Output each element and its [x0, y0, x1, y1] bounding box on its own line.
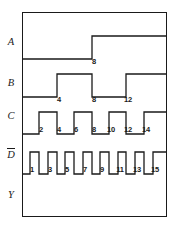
row-label-dbar: D	[2, 148, 20, 160]
tick-label-dbar-3: 3	[43, 165, 57, 174]
tick-label-dbar-15: 15	[148, 165, 162, 174]
tick-label-c-12: 12	[121, 125, 135, 134]
tick-label-dbar-11: 11	[113, 165, 127, 174]
row-label-c: C	[2, 110, 20, 121]
waveform-canvas	[22, 12, 167, 217]
row-label-y: Y	[2, 189, 20, 200]
row-label-y-text: Y	[8, 189, 14, 200]
tick-label-dbar-7: 7	[78, 165, 92, 174]
tick-label-dbar-5: 5	[60, 165, 74, 174]
timing-diagram-figure: A B C D Y 8 4 8 12 2 4 6 8 10 12 14	[0, 0, 175, 229]
tick-label-c-14: 14	[139, 125, 153, 134]
row-label-c-text: C	[7, 110, 14, 121]
tick-label-c-10: 10	[104, 125, 118, 134]
row-label-a: A	[2, 36, 20, 47]
waveform-b	[22, 74, 167, 97]
waveform-a	[22, 36, 167, 59]
row-label-a-text: A	[8, 36, 14, 47]
tick-label-b-8: 8	[87, 95, 101, 104]
tick-label-c-2: 2	[34, 125, 48, 134]
row-label-b-text: B	[8, 77, 14, 88]
tick-label-dbar-13: 13	[130, 165, 144, 174]
tick-label-a-8: 8	[87, 57, 101, 66]
tick-label-b-4: 4	[52, 95, 66, 104]
tick-label-c-4: 4	[52, 125, 66, 134]
tick-label-dbar-9: 9	[95, 165, 109, 174]
tick-label-b-12: 12	[121, 95, 135, 104]
tick-label-c-6: 6	[69, 125, 83, 134]
tick-label-c-8: 8	[87, 125, 101, 134]
row-label-dbar-text: D	[7, 148, 15, 160]
row-label-b: B	[2, 77, 20, 88]
tick-label-dbar-1: 1	[25, 165, 39, 174]
